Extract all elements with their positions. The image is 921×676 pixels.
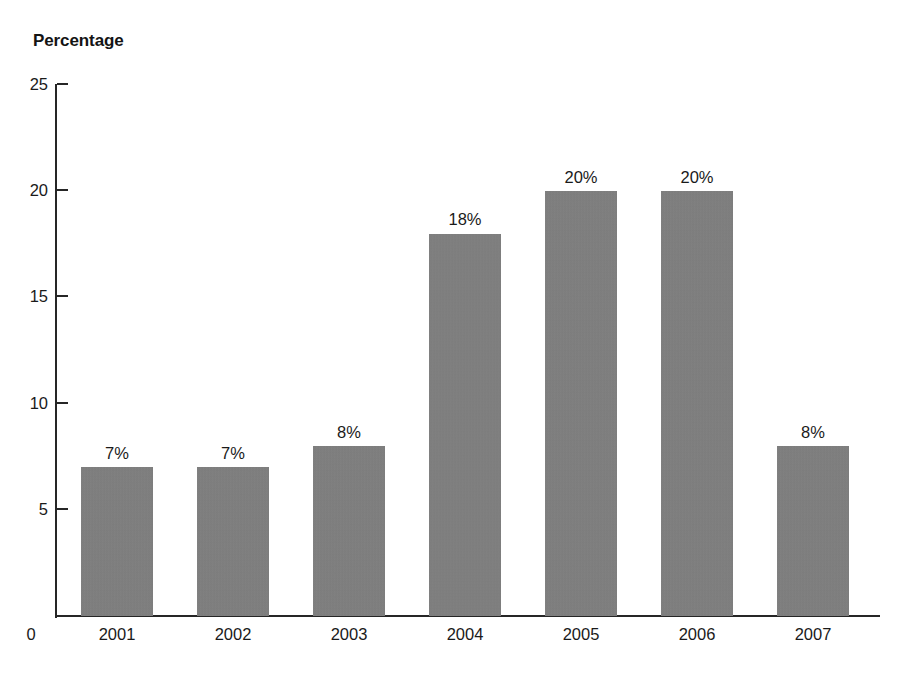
bar-value-label: 7%: [197, 445, 269, 462]
bar-value-label: 20%: [661, 169, 733, 186]
bar-rect[interactable]: [661, 191, 733, 616]
plot-area: 7%20017%20028%200318%200420%200520%20068…: [57, 85, 880, 616]
bar-rect[interactable]: [313, 446, 385, 616]
y-tick-label: 15: [8, 288, 48, 305]
x-tick-label: 2004: [407, 626, 523, 643]
bar-group[interactable]: 8%2007: [777, 85, 849, 616]
bar-group[interactable]: 20%2006: [661, 85, 733, 616]
bar-rect[interactable]: [429, 234, 501, 616]
y-tick-label: 25: [8, 76, 48, 93]
bar-value-label: 8%: [777, 424, 849, 441]
x-tick-label: 2001: [59, 626, 175, 643]
bar-group[interactable]: 20%2005: [545, 85, 617, 616]
bar-chart-figure: Percentage 252015105 0 7%20017%20028%200…: [0, 0, 921, 676]
x-tick-label: 2003: [291, 626, 407, 643]
x-tick-label: 2007: [755, 626, 871, 643]
bar-value-label: 8%: [313, 424, 385, 441]
bar-group[interactable]: 7%2001: [81, 85, 153, 616]
bar-rect[interactable]: [777, 446, 849, 616]
bar-value-label: 7%: [81, 445, 153, 462]
bar-value-label: 20%: [545, 169, 617, 186]
y-tick-label: 10: [8, 395, 48, 412]
bar-group[interactable]: 7%2002: [197, 85, 269, 616]
bar-value-label: 18%: [429, 211, 501, 228]
bar-group[interactable]: 8%2003: [313, 85, 385, 616]
y-axis-zero-label: 0: [13, 625, 49, 644]
bar-group[interactable]: 18%2004: [429, 85, 501, 616]
y-axis-title: Percentage: [33, 31, 124, 51]
y-tick-label: 5: [8, 501, 48, 518]
x-tick-label: 2005: [523, 626, 639, 643]
x-tick-label: 2006: [639, 626, 755, 643]
bar-rect[interactable]: [197, 467, 269, 616]
x-tick-label: 2002: [175, 626, 291, 643]
y-tick-label: 20: [8, 182, 48, 199]
bar-rect[interactable]: [545, 191, 617, 616]
bar-rect[interactable]: [81, 467, 153, 616]
